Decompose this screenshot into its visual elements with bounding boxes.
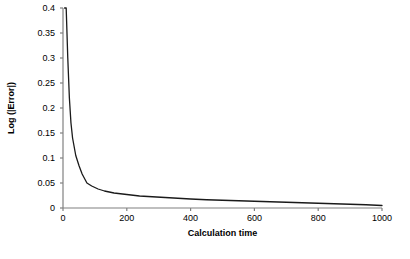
x-tick-label: 200 xyxy=(119,212,134,224)
chart-figure: Log (|Error|) 00.050.10.150.20.250.30.35… xyxy=(0,0,410,259)
x-axis-title: Calculation time xyxy=(63,228,382,238)
x-tick-label: 600 xyxy=(247,212,262,224)
x-tick-label: 1000 xyxy=(372,212,392,224)
axis-lines xyxy=(63,8,382,208)
x-axis-tick-labels: 02004006008001000 xyxy=(63,212,382,228)
x-tick-label: 0 xyxy=(60,212,65,224)
x-tick-label: 400 xyxy=(183,212,198,224)
x-tick-label: 800 xyxy=(311,212,326,224)
data-series-line xyxy=(65,8,382,206)
